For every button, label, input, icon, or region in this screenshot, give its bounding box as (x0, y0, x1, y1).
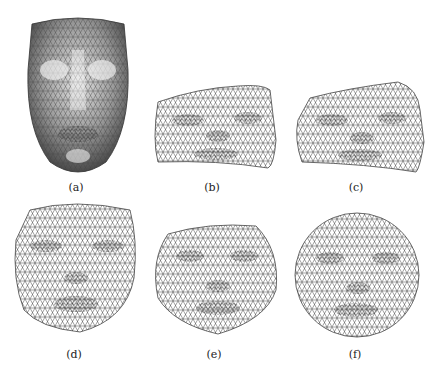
panel-d-wireframe (10, 200, 140, 340)
panel-e-wireframe (148, 220, 283, 340)
caption-e: (e) (194, 348, 234, 361)
panel-c-wireframe (288, 80, 428, 175)
caption-a: (a) (56, 181, 96, 194)
face-mesh-wireframe-icon (148, 80, 283, 175)
panel-b-wireframe (148, 80, 283, 175)
caption-c: (c) (336, 181, 376, 194)
face-mesh-shaded-icon (18, 10, 138, 180)
caption-b: (b) (192, 181, 232, 194)
panel-a-shaded-face (18, 10, 138, 180)
face-mesh-wireframe-icon (10, 200, 140, 340)
caption-f: (f) (335, 348, 375, 361)
caption-d: (d) (54, 348, 94, 361)
face-mesh-wireframe-icon (292, 210, 422, 340)
panel-f-wireframe (292, 210, 422, 340)
face-mesh-wireframe-icon (288, 80, 428, 175)
face-mesh-wireframe-icon (148, 220, 283, 340)
